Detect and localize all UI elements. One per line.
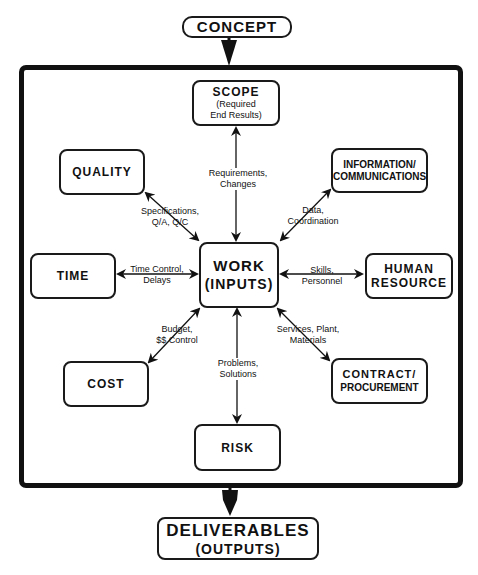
edge-label-scope: Requirements, Changes <box>209 168 268 190</box>
risk-title: RISK <box>221 441 254 455</box>
edge-cost-line2: $$ Control <box>156 335 198 346</box>
contract-line1: CONTRACT/ <box>343 368 417 381</box>
time-title: TIME <box>57 269 90 283</box>
edge-quality-line1: Specifications, <box>141 206 199 217</box>
scope-sub2: End Results) <box>210 110 262 121</box>
edge-cost-line1: Budget, <box>156 324 198 335</box>
concept-label: CONCEPT <box>197 20 277 34</box>
scope-title: SCOPE <box>212 85 259 99</box>
work-subtitle: (INPUTS) <box>205 275 274 294</box>
edge-label-quality: Specifications, Q/A, Q/C <box>141 206 199 228</box>
info-line2: COMMUNICATIONS <box>333 171 426 183</box>
cost-title: COST <box>87 377 124 391</box>
edge-label-risk: Problems, Solutions <box>218 358 259 380</box>
human-resource-node: HUMAN RESOURCE <box>365 253 453 299</box>
human-line2: RESOURCE <box>371 276 447 290</box>
quality-title: QUALITY <box>72 165 132 179</box>
work-title: WORK <box>213 256 265 275</box>
edge-time-line1: Time Control, <box>130 264 184 275</box>
contract-node: CONTRACT/ PROCUREMENT <box>331 358 428 404</box>
deliverables-subtitle: (OUTPUTS) <box>195 541 280 557</box>
time-node: TIME <box>30 253 116 299</box>
edge-human-line2: Personnel <box>302 276 343 287</box>
deliverables-box: DELIVERABLES (OUTPUTS) <box>157 517 319 560</box>
edge-risk-line1: Problems, <box>218 358 259 369</box>
edge-human-line1: Skills, <box>302 265 343 276</box>
edge-quality-line2: Q/A, Q/C <box>141 217 199 228</box>
edge-time-line2: Delays <box>130 275 184 286</box>
scope-sub1: (Required <box>216 99 256 110</box>
concept-box: CONCEPT <box>182 16 292 38</box>
risk-node: RISK <box>194 424 281 471</box>
edge-scope-line1: Requirements, <box>209 168 268 179</box>
edge-contract-line2: Materials <box>277 335 340 346</box>
deliverables-title: DELIVERABLES <box>166 520 309 541</box>
human-line1: HUMAN <box>384 262 434 276</box>
work-node: WORK (INPUTS) <box>199 242 279 308</box>
quality-node: QUALITY <box>59 149 145 195</box>
edge-info-line1: Data, <box>287 205 338 216</box>
scope-node: SCOPE (Required End Results) <box>192 80 280 126</box>
edge-info-line2: Coordination <box>287 216 338 227</box>
information-node: INFORMATION/ COMMUNICATIONS <box>331 148 428 193</box>
contract-line2: PROCUREMENT <box>340 381 418 394</box>
edge-risk-line2: Solutions <box>218 369 259 380</box>
edge-scope-line2: Changes <box>209 179 268 190</box>
info-line1: INFORMATION/ <box>343 159 416 171</box>
cost-node: COST <box>63 361 149 407</box>
edge-label-cost: Budget, $$ Control <box>156 324 198 346</box>
edge-label-contract: Services, Plant, Materials <box>277 324 340 346</box>
edge-label-time: Time Control, Delays <box>130 264 184 286</box>
edge-label-human: Skills, Personnel <box>302 265 343 287</box>
edge-label-info: Data, Coordination <box>287 205 338 227</box>
edge-contract-line1: Services, Plant, <box>277 324 340 335</box>
